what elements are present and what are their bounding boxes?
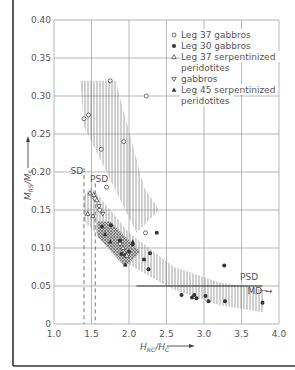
y-tick-label: 0	[45, 319, 51, 329]
legend-marker	[172, 55, 176, 59]
x-axis-arrowhead	[189, 344, 195, 348]
data-point	[207, 299, 211, 303]
legend: Leg 37 gabbrosLeg 30 gabbrosLeg 37 serpe…	[172, 29, 283, 106]
data-point	[195, 296, 199, 300]
data-point	[127, 250, 131, 254]
legend-item-label: peridotites	[181, 63, 230, 73]
x-tick-label: 1.5	[84, 329, 98, 339]
data-point	[82, 117, 86, 121]
legend-item-label: Leg 30 gabbros	[181, 41, 251, 51]
region-label: PSD	[240, 272, 258, 282]
data-point	[109, 223, 113, 227]
day-plot-chart: 1.01.52.02.53.03.54.000.050.100.150.200.…	[0, 0, 295, 370]
x-tick-label: 3.0	[197, 329, 212, 339]
legend-marker	[172, 44, 176, 48]
y-tick-label: 0.35	[31, 53, 51, 63]
x-tick-label: 3.5	[234, 329, 248, 339]
y-tick-label: 0.25	[31, 129, 51, 139]
y-tick-label: 0.05	[31, 281, 51, 291]
data-point	[148, 251, 152, 255]
y-tick-label: 0.30	[31, 91, 51, 101]
data-point	[147, 267, 151, 271]
data-point	[223, 299, 227, 303]
y-tick-label: 0.15	[31, 205, 51, 215]
x-axis-label: HRC/HC	[140, 342, 170, 353]
data-point	[87, 113, 91, 117]
y-tick-label: 0.10	[31, 243, 51, 253]
data-point	[105, 185, 109, 189]
legend-item-label: gabbros	[181, 74, 218, 84]
data-point	[142, 257, 146, 261]
y-tick-label: 0.20	[31, 167, 51, 177]
x-tick-label: 1.0	[47, 329, 62, 339]
y-tick-label: 0.40	[31, 15, 51, 25]
x-tick-label: 2.0	[122, 329, 137, 339]
data-point	[120, 252, 124, 256]
data-point	[222, 263, 226, 267]
data-point	[108, 79, 112, 83]
data-point	[98, 208, 102, 212]
hatched-regions	[80, 81, 264, 313]
x-tick-label: 2.5	[159, 329, 173, 339]
data-point	[122, 140, 126, 144]
legend-marker	[172, 87, 177, 91]
y-axis-label: MRS/MS	[23, 169, 34, 200]
data-point	[204, 294, 208, 298]
legend-marker	[172, 77, 176, 81]
legend-item-label: Leg 37 serpentinized	[181, 52, 275, 62]
data-point	[99, 147, 103, 151]
region-label: SD	[71, 166, 84, 176]
y-axis-arrowhead	[26, 136, 30, 142]
data-point	[144, 231, 148, 235]
region-label: PSD	[90, 174, 108, 184]
data-point	[155, 231, 159, 235]
data-point	[180, 293, 184, 297]
legend-item-label: peridotites	[181, 96, 230, 106]
data-point	[261, 301, 265, 305]
legend-item-label: Leg 37 gabbros	[181, 30, 251, 40]
x-tick-label: 4.0	[272, 329, 287, 339]
legend-item-label: Leg 45 serpentinized	[181, 85, 275, 95]
data-point	[144, 94, 148, 98]
data-point	[118, 238, 122, 242]
legend-marker	[172, 33, 176, 37]
data-point	[100, 225, 104, 229]
